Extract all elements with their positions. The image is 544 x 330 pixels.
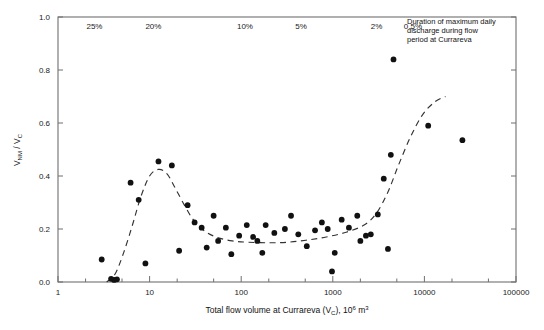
data-point [259, 250, 265, 256]
x-axis-title-pre: Total flow volume at Currareva (V [205, 305, 331, 315]
y-tick-label: 0.0 [39, 278, 51, 287]
data-point [114, 276, 120, 282]
annotation-line-3: period at Currareva [407, 35, 472, 44]
data-point [236, 233, 242, 239]
y-tick-label: 0.2 [39, 225, 51, 234]
data-point [228, 251, 234, 257]
data-point [391, 57, 397, 63]
data-point [346, 225, 352, 231]
figure-background [0, 0, 544, 330]
data-point [368, 231, 374, 237]
data-point [263, 222, 269, 228]
y-axis-title-sub-c: C [17, 133, 23, 138]
data-point [136, 197, 142, 203]
data-point [254, 238, 260, 244]
x-tick-label: 100 [235, 288, 249, 297]
data-point [332, 250, 338, 256]
x-axis-title-post: m [356, 305, 365, 315]
data-point [99, 257, 105, 263]
data-point [192, 219, 198, 225]
data-point [244, 222, 250, 228]
data-point [357, 238, 363, 244]
y-axis-title-slash: / V [12, 138, 22, 151]
chart-figure: 0.00.20.40.60.81.0 110100100010000100000… [0, 0, 544, 330]
data-point [363, 233, 369, 239]
data-point [425, 123, 431, 129]
percent-label: 10% [237, 22, 253, 31]
x-axis-title-mid: ), 10 [335, 305, 352, 315]
data-point [215, 238, 221, 244]
y-tick-label: 0.6 [39, 119, 51, 128]
annotation-line-1: Duration of maximum daily [407, 17, 496, 26]
data-point [143, 261, 149, 267]
data-point [329, 269, 335, 275]
data-point [325, 226, 331, 232]
data-point [339, 217, 345, 223]
data-point [128, 180, 134, 186]
x-tick-label: 10000 [413, 288, 436, 297]
annotation-line-2: discharge during flow [407, 26, 478, 35]
data-point [199, 225, 205, 231]
data-point [381, 176, 387, 182]
percent-label: 25% [86, 22, 102, 31]
data-point [354, 213, 360, 219]
y-tick-label: 0.4 [39, 172, 51, 181]
data-point [156, 159, 162, 165]
data-point [295, 231, 301, 237]
x-tick-label: 10 [145, 288, 154, 297]
data-point [185, 202, 191, 208]
data-point [304, 243, 310, 249]
x-tick-label: 1 [56, 288, 61, 297]
data-point [388, 152, 394, 158]
data-point [375, 212, 381, 218]
data-point [319, 219, 325, 225]
data-point [460, 137, 466, 143]
y-tick-label: 0.8 [39, 66, 51, 75]
y-axis-title-sub-nm: NM [17, 151, 23, 160]
y-tick-label: 1.0 [39, 13, 51, 22]
percent-label: 2% [371, 22, 383, 31]
data-point [223, 225, 229, 231]
data-point [312, 227, 318, 233]
data-point [169, 163, 175, 169]
data-point [250, 234, 256, 240]
data-point [385, 246, 391, 252]
data-point [176, 248, 182, 254]
x-tick-label: 100000 [503, 288, 530, 297]
data-point [282, 226, 288, 232]
x-tick-label: 1000 [324, 288, 342, 297]
data-point [204, 245, 210, 251]
data-point [271, 230, 277, 236]
chart-canvas: 0.00.20.40.60.81.0 110100100010000100000… [0, 0, 544, 330]
data-point [288, 213, 294, 219]
data-point [211, 213, 217, 219]
percent-label: 5% [295, 22, 307, 31]
percent-label: 20% [145, 22, 161, 31]
x-axis-title: Total flow volume at Currareva (VC), 106… [205, 305, 369, 316]
